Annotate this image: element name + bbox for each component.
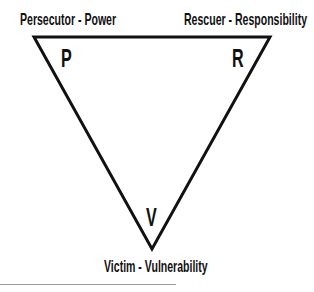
victim-label: Victim - Vulnerability	[104, 257, 208, 277]
triangle-diagram	[0, 0, 314, 292]
rescuer-letter: R	[232, 43, 244, 74]
persecutor-letter: P	[61, 43, 72, 74]
persecutor-label: Persecutor - Power	[20, 10, 116, 30]
divider-line	[0, 284, 176, 285]
rescuer-label: Rescuer - Responsibility	[184, 10, 307, 30]
victim-letter: V	[146, 202, 157, 233]
